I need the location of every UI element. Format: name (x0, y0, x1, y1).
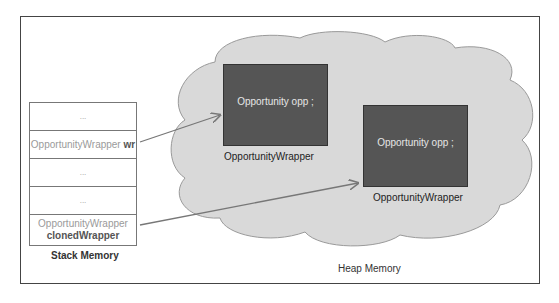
stack-cell-var: clonedWrapper (47, 230, 120, 242)
heap-object-content: Opportunity opp ; (237, 96, 314, 107)
stack-cell-wr: OpportunityWrapper wr (30, 131, 136, 159)
stack-memory-table: ... OpportunityWrapper wr ... ... Opport… (29, 102, 137, 246)
stack-cell-text: ... (80, 167, 87, 179)
heap-memory-label: Heap Memory (338, 263, 401, 274)
heap-object-content: Opportunity opp ; (377, 137, 454, 148)
stack-cell-type: OpportunityWrapper (38, 218, 128, 230)
stack-cell-text: ... (80, 111, 87, 123)
heap-object-1: Opportunity opp ; (223, 64, 328, 146)
heap-object-2-type-label: OpportunityWrapper (373, 192, 463, 203)
stack-cell-type: OpportunityWrapper (31, 139, 121, 151)
stack-cell: ... (30, 187, 136, 215)
stack-cell: ... (30, 103, 136, 131)
stack-memory-label: Stack Memory (51, 250, 119, 261)
stack-cell-text: ... (80, 195, 87, 207)
stack-cell-clonedwrapper: OpportunityWrapperclonedWrapper (30, 215, 136, 245)
stack-cell-var: wr (123, 139, 135, 151)
stack-cell: ... (30, 159, 136, 187)
heap-object-1-type-label: OpportunityWrapper (224, 151, 314, 162)
heap-object-2: Opportunity opp ; (363, 105, 468, 187)
